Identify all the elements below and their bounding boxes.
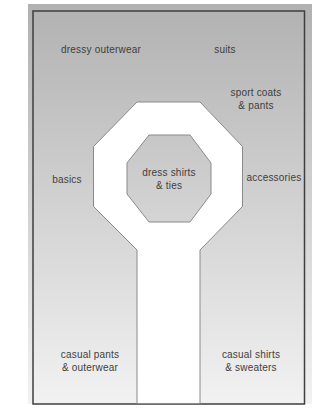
zone-label-dress-shirts-ties: dress shirts & ties — [129, 167, 209, 192]
zone-label-line: dress shirts — [129, 167, 209, 180]
zone-label-line: casual pants — [50, 349, 130, 362]
zone-label-line: casual shirts — [211, 349, 291, 362]
zone-label-casual-shirts-sweaters: casual shirts & sweaters — [211, 349, 291, 374]
zone-label-line: basics — [37, 174, 97, 187]
zone-label-line: & outerwear — [50, 362, 130, 375]
zone-label-line: & pants — [216, 100, 296, 113]
zone-label-line: suits — [195, 44, 255, 57]
zone-label-accessories: accessories — [242, 172, 306, 185]
zone-label-line: sport coats — [216, 87, 296, 100]
zone-label-line: accessories — [242, 172, 306, 185]
zone-label-sport-coats-pants: sport coats & pants — [216, 87, 296, 112]
zone-label-suits: suits — [195, 44, 255, 57]
zone-label-dressy-outerwear: dressy outerwear — [56, 44, 146, 57]
zone-label-line: & ties — [129, 180, 209, 193]
floor-plan-figure: dressy outerwear suits sport coats & pan… — [0, 0, 312, 413]
zone-label-line: dressy outerwear — [56, 44, 146, 57]
zone-label-basics: basics — [37, 174, 97, 187]
zone-label-line: & sweaters — [211, 362, 291, 375]
zone-label-casual-pants-outerwear: casual pants & outerwear — [50, 349, 130, 374]
